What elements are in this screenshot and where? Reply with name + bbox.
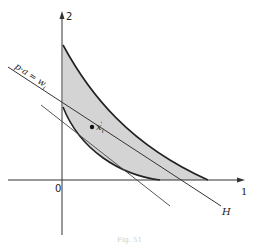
point-label-superscript: ' — [101, 120, 103, 127]
diagram: 2 1 0 p·a = wi H xi' Fig. 51 — [0, 0, 259, 247]
point-label-subscript: i — [102, 127, 104, 134]
point-label: xi' — [96, 121, 102, 134]
y-axis-label: 2 — [66, 12, 72, 22]
origin-label: 0 — [55, 184, 61, 194]
x-axis-label: 1 — [241, 187, 247, 197]
y-axis-arrow-icon — [60, 11, 65, 19]
figure-caption: Fig. 51 — [0, 236, 259, 244]
hyperplane-label: H — [222, 207, 231, 217]
shaded-region — [63, 45, 208, 180]
diagram-canvas — [0, 0, 259, 247]
point-xi — [90, 125, 94, 129]
x-axis-arrow-icon — [237, 178, 245, 183]
